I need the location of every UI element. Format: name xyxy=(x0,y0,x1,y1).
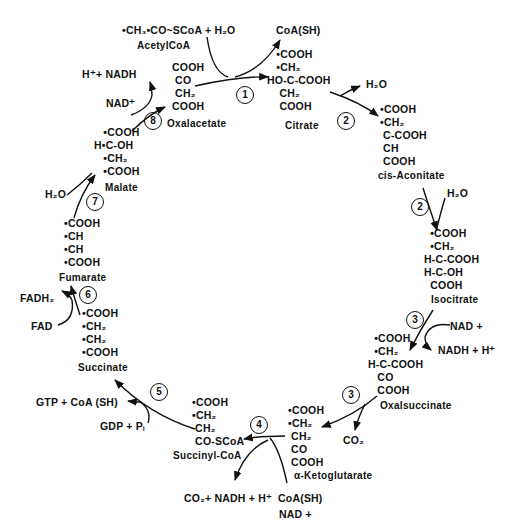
arrow-h2o-out-2a xyxy=(340,86,360,96)
arrow-citrate-to-cisaconitate xyxy=(330,92,378,116)
succinate-label: Succinate xyxy=(78,362,128,373)
citrate-label: Citrate xyxy=(285,120,319,131)
coa-sh-product-1: CoA(SH) xyxy=(276,24,321,36)
gtp-product-5: GTP + CoA (SH) xyxy=(36,396,118,408)
succinyl-coa-structure: •COOH •CH₂ CH₂ CO-SCoA xyxy=(192,396,244,448)
step-2a-badge: 2 xyxy=(337,112,355,130)
step-3b-badge: 3 xyxy=(342,386,360,404)
succinate-structure: •COOH •CH₂ •CH₂ •COOH xyxy=(82,307,118,359)
nad-reactant-3: NAD + xyxy=(450,320,483,332)
step-2b-badge: 2 xyxy=(411,198,429,216)
products-4: CO₂+ NADH + H⁺ xyxy=(184,492,272,504)
alpha-ketoglutarate-structure: •COOH •CH₂ CH₂ CO COOH xyxy=(288,404,324,469)
arrow-nadh-out-8 xyxy=(150,82,152,95)
step-1-badge: 1 xyxy=(236,86,254,104)
arrow-h2o-in-2b xyxy=(437,198,445,228)
acetyl-coa-name: AcetylCoA xyxy=(137,40,190,51)
step-7-badge: 7 xyxy=(86,193,104,211)
step-5-badge: 5 xyxy=(150,383,168,401)
nadh-product-3: NADH + H⁺ xyxy=(438,344,496,356)
step-6-badge: 6 xyxy=(79,286,97,304)
fumarate-structure: •COOH •CH •CH •COOH xyxy=(64,217,100,269)
isocitrate-structure: •COOH •CH₂ H-C-COOH H-C-OH COOH xyxy=(424,227,479,292)
succinyl-coa-label: Succinyl-CoA xyxy=(173,450,242,461)
acetyl-coa-formula: •CH₃•CO~SCoA + H₂O xyxy=(122,24,235,36)
co2-product-3: CO₂ xyxy=(343,434,364,446)
citrate-structure: •COOH •CH₂ HO-C-COOH CH₂ COOH xyxy=(267,48,331,113)
isocitrate-label: Isocitrate xyxy=(431,294,478,305)
arrow-akg-to-succinylcoa xyxy=(244,436,285,439)
arrow-acetylcoa-in xyxy=(207,37,228,77)
arrow-nadh-out-3 xyxy=(425,337,431,350)
malate-structure: •COOH H•C-OH •CH₂ •COOH xyxy=(94,126,140,178)
oxalsuccinate-label: Oxalsuccinate xyxy=(380,400,452,411)
arrow-oxalacetate-to-citrate xyxy=(195,77,268,86)
arrow-nad-in-3 xyxy=(425,325,450,338)
nad-reactant-4: NAD + xyxy=(279,508,312,520)
oxalacetate-structure: COOH CO CH₂ COOH xyxy=(172,61,204,113)
h2o-reactant-7: H₂O xyxy=(45,188,66,200)
arrow-coash-in-4 xyxy=(270,438,287,483)
arrow-gtp-out-5 xyxy=(128,401,140,402)
fad-reactant-6: FAD xyxy=(31,320,53,332)
nad-reactant-8: NAD⁺ xyxy=(106,97,136,109)
step-3a-badge: 3 xyxy=(406,311,424,329)
oxalsuccinate-structure: •COOH •CH₂ H-C-COOH CO COOH xyxy=(368,332,423,397)
arrow-fad-in-6 xyxy=(58,300,72,325)
cis-aconitate-structure: •COOH •CH₂ C-COOH CH COOH xyxy=(380,103,427,168)
malate-label: Malate xyxy=(105,182,138,193)
coa-sh-reactant-4: CoA(SH) xyxy=(278,492,323,504)
cis-aconitate-label: cis-Aconitate xyxy=(378,170,445,181)
h2o-reactant-2b: H₂O xyxy=(447,187,468,199)
alpha-ketoglutarate-label: α-Ketoglutarate xyxy=(294,470,372,481)
step-4-badge: 4 xyxy=(250,416,268,434)
oxalacetate-label: Oxalacetate xyxy=(167,118,226,129)
step-8-badge: 8 xyxy=(144,112,162,130)
gdp-reactant-5: GDP + Pᵢ xyxy=(100,420,145,432)
fumarate-label: Fumarate xyxy=(59,272,106,283)
fadh2-product-6: FADH₂ xyxy=(20,292,54,304)
nadh-product-8: H⁺+ NADH xyxy=(82,68,137,80)
arrow-fadh2-out-6 xyxy=(62,291,72,300)
h2o-product-2a: H₂O xyxy=(366,78,387,90)
